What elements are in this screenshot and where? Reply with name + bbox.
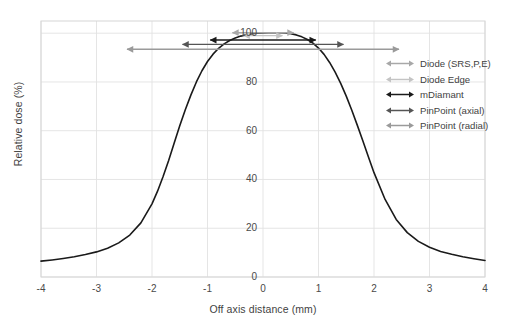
y-tick-label: 60 (231, 125, 257, 136)
x-tick-label: -4 (26, 283, 56, 294)
x-tick-label: 2 (359, 283, 389, 294)
x-tick-label: 0 (248, 283, 278, 294)
x-tick-label: -1 (193, 283, 223, 294)
legend-item-label: mDiamant (420, 89, 464, 100)
legend-item-diode-srs-p-e[interactable]: Diode (SRS,P,E) (385, 56, 506, 72)
x-tick-label: -2 (137, 283, 167, 294)
chart-x-axis-title: Off axis distance (mm) (41, 303, 485, 315)
chart-figure: 020406080100 -4-3-2-101234 Relative dose… (0, 0, 506, 330)
chart-y-axis-title: Relative dose (%) (12, 44, 24, 204)
legend-arrow-icon (385, 105, 415, 116)
legend-item-pinpoint-axial[interactable]: PinPoint (axial) (385, 103, 506, 119)
legend-arrow-icon (385, 120, 415, 131)
y-tick-label: 100 (231, 27, 257, 38)
legend-item-mdiamant[interactable]: mDiamant (385, 87, 506, 103)
chart-legend: Diode (SRS,P,E)Diode EdgemDiamantPinPoin… (385, 56, 506, 134)
legend-item-label: PinPoint (axial) (420, 105, 485, 116)
y-tick-label: 20 (231, 222, 257, 233)
x-tick-label: 4 (470, 283, 500, 294)
legend-arrow-icon (385, 89, 415, 100)
legend-item-pinpoint-radial[interactable]: PinPoint (radial) (385, 118, 506, 134)
legend-arrow-icon (385, 74, 415, 85)
legend-item-label: PinPoint (radial) (420, 120, 488, 131)
legend-item-diode-edge[interactable]: Diode Edge (385, 72, 506, 88)
legend-item-label: Diode (SRS,P,E) (420, 58, 491, 69)
x-tick-label: -3 (82, 283, 112, 294)
legend-arrow-icon (385, 58, 415, 69)
y-tick-label: 80 (231, 76, 257, 87)
y-tick-label: 40 (231, 173, 257, 184)
x-tick-label: 3 (415, 283, 445, 294)
legend-item-label: Diode Edge (420, 74, 470, 85)
x-tick-label: 1 (304, 283, 334, 294)
y-tick-label: 0 (231, 271, 257, 282)
